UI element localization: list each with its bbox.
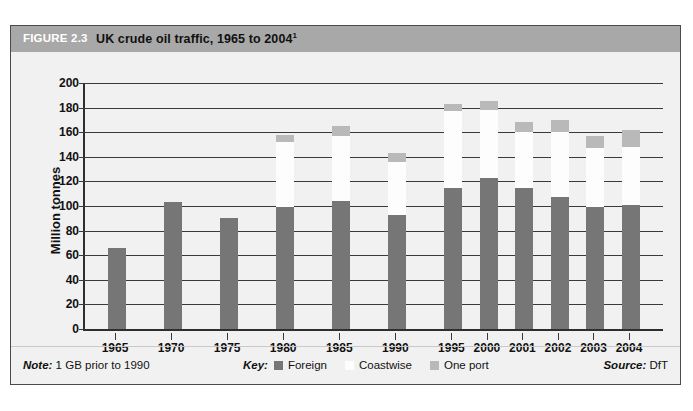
bar-2002[interactable] xyxy=(551,120,569,329)
legend-swatch-coastwise-icon xyxy=(345,361,354,370)
bar-segment-coastwise xyxy=(515,132,533,187)
bar-segment-one-port xyxy=(332,126,350,136)
bar-segment-coastwise xyxy=(388,162,406,215)
figure-note: Note: 1 GB prior to 1990 xyxy=(23,359,150,371)
bar-1975[interactable] xyxy=(220,218,238,329)
bar-1970[interactable] xyxy=(164,202,182,329)
y-axis-tick xyxy=(79,108,85,109)
y-axis-tick-label: 140 xyxy=(45,151,79,163)
legend-item-one-port[interactable]: One port xyxy=(430,359,489,371)
bar-segment-one-port xyxy=(515,122,533,132)
bar-segment-foreign xyxy=(480,178,498,329)
bar-segment-foreign xyxy=(551,197,569,329)
bar-1995[interactable] xyxy=(444,104,462,329)
bar-segment-one-port xyxy=(622,130,640,147)
bar-segment-foreign xyxy=(164,202,182,329)
bar-segment-one-port xyxy=(480,101,498,110)
y-axis-tick-label: 200 xyxy=(45,77,79,89)
figure-title-footnote-marker: 1 xyxy=(293,31,298,40)
bar-1965[interactable] xyxy=(108,248,126,329)
bar-segment-one-port xyxy=(551,120,569,132)
x-axis-tick xyxy=(593,333,594,340)
chart-legend: Key: Foreign Coastwise One port xyxy=(243,359,507,371)
y-axis-tick xyxy=(79,181,85,182)
y-axis-tick-label: 120 xyxy=(45,175,79,187)
gridline xyxy=(85,83,663,84)
y-axis-tick xyxy=(79,304,85,305)
figure-number: FIGURE 2.3 xyxy=(23,32,88,44)
figure-panel: FIGURE 2.3 UK crude oil traffic, 1965 to… xyxy=(10,25,681,385)
y-axis-tick-label: 160 xyxy=(45,126,79,138)
bar-segment-one-port xyxy=(586,136,604,148)
x-axis-tick xyxy=(522,333,523,340)
bar-segment-coastwise xyxy=(480,110,498,178)
bar-segment-foreign xyxy=(332,201,350,329)
legend-text-coastwise: Coastwise xyxy=(359,359,412,371)
bar-segment-one-port xyxy=(388,153,406,162)
bar-1980[interactable] xyxy=(276,135,294,329)
legend-text-foreign: Foreign xyxy=(288,359,327,371)
x-axis-tick xyxy=(451,333,452,340)
bar-1990[interactable] xyxy=(388,153,406,329)
y-axis-tick xyxy=(79,206,85,207)
gridline xyxy=(85,157,663,158)
y-axis-tick-label: 40 xyxy=(45,274,79,286)
bar-segment-foreign xyxy=(622,205,640,329)
source-label: Source: xyxy=(603,359,646,371)
bar-segment-foreign xyxy=(515,188,533,329)
x-axis-tick xyxy=(395,333,396,340)
legend-item-foreign[interactable]: Foreign xyxy=(274,359,327,371)
x-axis-tick xyxy=(339,333,340,340)
legend-swatch-one-port-icon xyxy=(430,361,439,370)
bar-2001[interactable] xyxy=(515,122,533,329)
note-label: Note: xyxy=(23,359,52,371)
y-axis-labels: Million tonnes 0204060801001201401601802… xyxy=(39,83,79,329)
bar-segment-foreign xyxy=(586,207,604,329)
y-axis-tick xyxy=(79,83,85,84)
y-axis-tick xyxy=(79,132,85,133)
y-axis-tick-label: 60 xyxy=(45,249,79,261)
y-axis-tick-label: 180 xyxy=(45,102,79,114)
plot-area xyxy=(83,83,663,331)
gridline xyxy=(85,108,663,109)
x-axis-tick xyxy=(283,333,284,340)
figure-title-bar: FIGURE 2.3 UK crude oil traffic, 1965 to… xyxy=(11,26,680,52)
y-axis-tick-label: 80 xyxy=(45,225,79,237)
bar-segment-foreign xyxy=(220,218,238,329)
bar-segment-coastwise xyxy=(622,147,640,205)
y-axis-tick xyxy=(79,280,85,281)
bar-2004[interactable] xyxy=(622,130,640,329)
bar-segment-coastwise xyxy=(444,111,462,187)
gridline xyxy=(85,132,663,133)
gridline xyxy=(85,181,663,182)
bar-segment-coastwise xyxy=(551,132,569,197)
bar-1985[interactable] xyxy=(332,126,350,329)
note-text: 1 GB prior to 1990 xyxy=(56,359,150,371)
x-axis-tick xyxy=(558,333,559,340)
legend-swatch-foreign-icon xyxy=(274,361,283,370)
y-axis-tick xyxy=(79,255,85,256)
x-axis-tick xyxy=(227,333,228,340)
bar-segment-foreign xyxy=(276,207,294,329)
bar-segment-foreign xyxy=(108,248,126,329)
bar-segment-foreign xyxy=(388,215,406,329)
x-axis-tick xyxy=(629,333,630,340)
figure-source: Source: DfT xyxy=(603,359,668,371)
y-axis-tick xyxy=(79,157,85,158)
y-axis-tick xyxy=(79,329,85,330)
legend-text-one-port: One port xyxy=(444,359,489,371)
figure-title: UK crude oil traffic, 1965 to 20041 xyxy=(96,31,297,46)
legend-item-coastwise[interactable]: Coastwise xyxy=(345,359,412,371)
x-axis-tick xyxy=(171,333,172,340)
bar-segment-coastwise xyxy=(332,136,350,201)
y-axis-tick-label: 0 xyxy=(45,323,79,335)
bar-2000[interactable] xyxy=(480,101,498,329)
bar-segment-one-port xyxy=(444,104,462,111)
figure-footer: Note: 1 GB prior to 1990 Key: Foreign Co… xyxy=(11,346,680,384)
bar-2003[interactable] xyxy=(586,136,604,329)
bar-segment-coastwise xyxy=(586,148,604,207)
legend-label: Key: xyxy=(243,359,268,371)
x-axis-tick xyxy=(487,333,488,340)
x-axis-tick xyxy=(115,333,116,340)
bar-segment-foreign xyxy=(444,188,462,329)
